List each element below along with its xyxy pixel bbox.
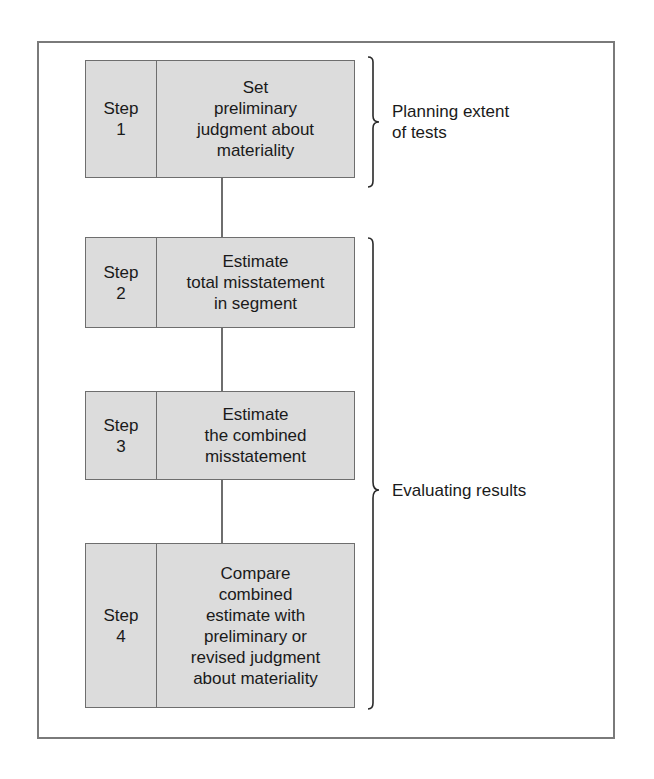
step-3-description: Estimatethe combinedmisstatement bbox=[157, 392, 354, 479]
connector-1-2 bbox=[221, 178, 223, 238]
curly-brace-planning-icon bbox=[366, 56, 386, 188]
curly-brace-evaluating-icon bbox=[366, 237, 386, 711]
step-1-box: Step1 Setpreliminaryjudgment aboutmateri… bbox=[85, 60, 355, 178]
step-4-box: Step4 Comparecombinedestimate withprelim… bbox=[85, 543, 355, 708]
step-1-description: Setpreliminaryjudgment aboutmateriality bbox=[157, 61, 354, 177]
step-3-box: Step3 Estimatethe combinedmisstatement bbox=[85, 391, 355, 480]
connector-3-4 bbox=[221, 480, 223, 543]
bracket-label-planning: Planning extentof tests bbox=[392, 101, 509, 143]
step-2-box: Step2 Estimatetotal misstatementin segme… bbox=[85, 237, 355, 328]
step-3-label: Step3 bbox=[86, 392, 157, 479]
step-1-label: Step1 bbox=[86, 61, 157, 177]
connector-2-3 bbox=[221, 328, 223, 391]
step-2-label: Step2 bbox=[86, 238, 157, 327]
bracket-label-evaluating: Evaluating results bbox=[392, 480, 526, 501]
step-2-description: Estimatetotal misstatementin segment bbox=[157, 238, 354, 327]
step-4-description: Comparecombinedestimate withpreliminary … bbox=[157, 544, 354, 707]
step-4-label: Step4 bbox=[86, 544, 157, 707]
